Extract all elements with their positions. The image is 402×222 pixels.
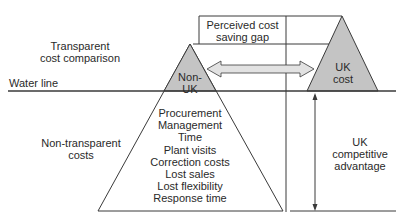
non-transparent-label: Non-transparent costs [36,137,126,161]
hidden-cost-item: Management [140,119,240,131]
uk-cost-line1: UK [327,61,359,73]
non-uk-line2: UK [175,83,205,95]
hidden-cost-item: Time [140,131,240,143]
hidden-cost-item: Lost sales [140,168,240,180]
water-line-text: Water line [9,77,58,89]
uk-advantage-line1: UK [322,136,398,148]
advantage-arrow [313,93,318,211]
perceived-gap-line1: Perceived cost [199,19,286,31]
double-arrow [207,61,314,77]
non-transparent-line1: Non-transparent [36,137,126,149]
uk-advantage-line3: advantage [322,160,398,172]
uk-advantage-line2: competitive [322,148,398,160]
uk-advantage-label: UK competitive advantage [322,136,398,172]
hidden-cost-item: Plant visits [140,144,240,156]
hidden-costs-list: Procurement Management Time Plant visits… [140,107,240,205]
perceived-gap-label: Perceived cost saving gap [199,19,286,43]
non-transparent-line2: costs [36,149,126,161]
hidden-cost-item: Correction costs [140,156,240,168]
transparent-label: Transparent cost comparison [30,40,130,64]
water-line-label: Water line [9,77,58,89]
perceived-gap-line2: saving gap [199,31,286,43]
transparent-label-line2: cost comparison [30,52,130,64]
hidden-cost-item: Lost flexibility [140,180,240,192]
non-uk-line1: Non- [175,71,205,83]
uk-cost-line2: cost [327,73,359,85]
transparent-label-line1: Transparent [30,40,130,52]
non-uk-label: Non- UK [175,71,205,95]
uk-cost-label: UK cost [327,61,359,85]
hidden-cost-item: Response time [140,192,240,204]
hidden-cost-item: Procurement [140,107,240,119]
